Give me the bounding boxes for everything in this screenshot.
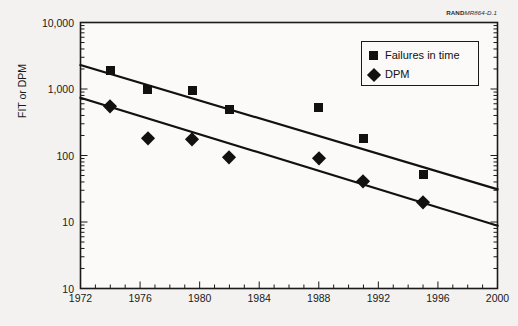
x-tick-label: 1992 xyxy=(367,292,390,304)
legend-item-label: Failures in time xyxy=(385,50,460,61)
x-tick-label: 1996 xyxy=(426,292,449,304)
legend-item-label: DPM xyxy=(385,69,409,80)
x-tick-label: 1984 xyxy=(248,292,271,304)
x-tick-label: 1980 xyxy=(188,292,211,304)
y-tick-label: 1,000 xyxy=(48,83,74,95)
data-point-square xyxy=(106,66,115,75)
y-tick-label: 10,000 xyxy=(42,17,74,29)
chart-figure: RANDMR864-D.1 FIT or DPM 10,0001,0001001… xyxy=(0,0,518,326)
data-point-square xyxy=(143,85,152,94)
y-tick-label: 10 xyxy=(62,216,74,228)
legend: Failures in time DPM xyxy=(361,41,479,86)
legend-item-dpm: DPM xyxy=(369,65,478,84)
x-tick-label: 1976 xyxy=(128,292,151,304)
x-tick-label: 1972 xyxy=(69,292,92,304)
diamond-marker-icon xyxy=(367,67,381,81)
data-point-square xyxy=(188,86,197,95)
data-point-square xyxy=(419,170,428,179)
x-tick-label: 1988 xyxy=(307,292,330,304)
data-point-square xyxy=(314,103,323,112)
legend-item-failures-in-time: Failures in time xyxy=(369,46,478,65)
y-tick-label: 100 xyxy=(56,150,74,162)
data-point-square xyxy=(359,134,368,143)
x-tick-label: 2000 xyxy=(486,292,509,304)
square-marker-icon xyxy=(369,51,378,60)
data-point-square xyxy=(225,105,234,114)
